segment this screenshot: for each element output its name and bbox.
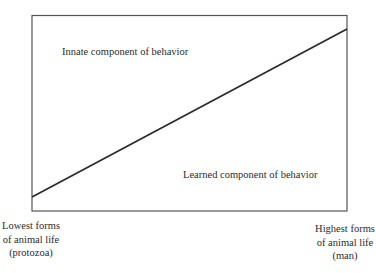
- innate-component-label: Innate component of behavior: [62, 45, 188, 59]
- x-axis-left-label: Lowest forms of animal life (protozoa): [0, 219, 71, 260]
- x-axis-left-line-3: (protozoa): [0, 246, 71, 260]
- x-axis-left-line-1: Lowest forms: [0, 219, 71, 233]
- x-axis-right-line-1: Highest forms: [305, 222, 376, 236]
- learned-component-label: Learned component of behavior: [183, 168, 317, 182]
- x-axis-right-line-3: (man): [305, 249, 376, 263]
- x-axis-left-line-2: of animal life: [0, 233, 71, 247]
- x-axis-right-line-2: of animal life: [305, 236, 376, 250]
- x-axis-right-label: Highest forms of animal life (man): [305, 222, 376, 263]
